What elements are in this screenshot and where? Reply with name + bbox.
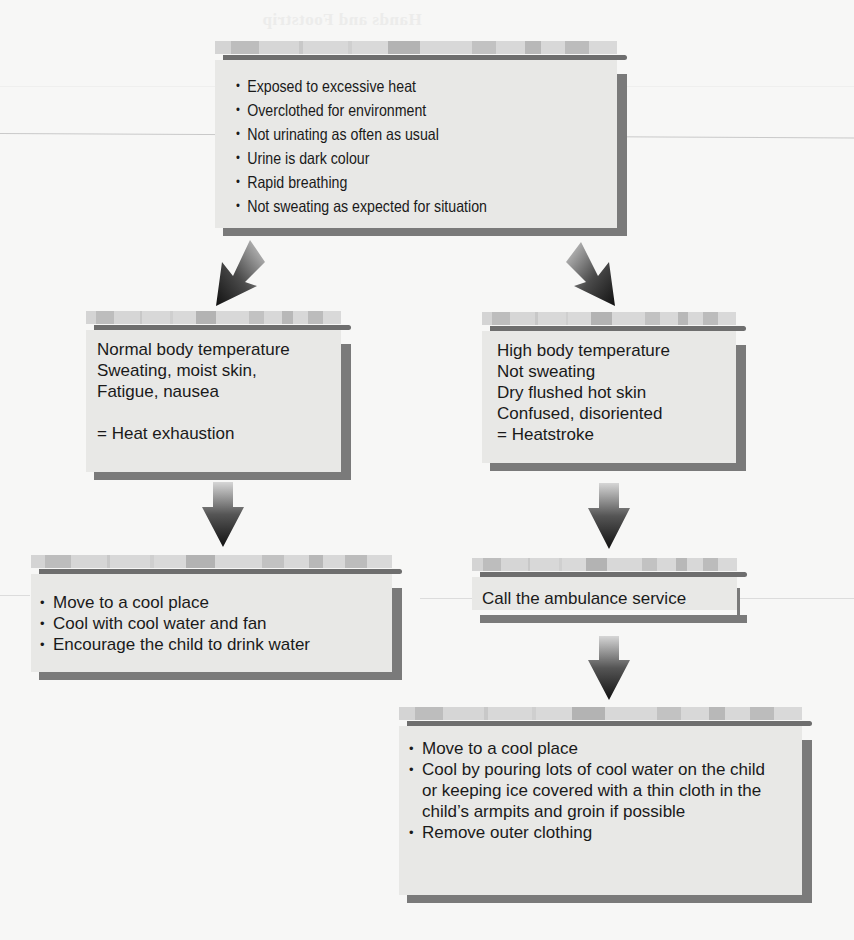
box-shadow <box>94 472 351 480</box>
symptom-line: Sweating, moist skin, <box>97 360 341 381</box>
treatment-list: Move to a cool place Cool by pouring lot… <box>409 738 779 843</box>
list-item: Cool by pouring lots of cool water on th… <box>409 759 779 822</box>
box-shadow <box>223 228 627 236</box>
exhaustion-treatment-box: Move to a cool place Cool with cool wate… <box>31 555 392 672</box>
arrow-to-heatstroke <box>566 242 615 306</box>
symptom-line: Normal body temperature <box>97 339 341 360</box>
symptoms-list: Exposed to excessive heat Overclothed fo… <box>236 74 614 218</box>
symptom-line: High body temperature <box>497 340 736 361</box>
symptom-line: Fatigue, nausea <box>97 381 341 402</box>
arrow-to-exhaustion-treatment <box>202 482 244 547</box>
symptoms-box: Exposed to excessive heat Overclothed fo… <box>215 41 617 228</box>
box-header-strip <box>482 312 736 325</box>
list-item: Remove outer clothing <box>409 822 779 843</box>
arrow-to-heatstroke-treatment <box>588 636 630 700</box>
call-ambulance-box: Call the ambulance service <box>472 558 737 612</box>
diagnosis-label: = Heatstroke <box>497 424 736 445</box>
list-item: Overclothed for environment <box>236 98 614 122</box>
arrow-to-heat-exhaustion <box>216 240 265 306</box>
box-header-strip <box>86 311 341 324</box>
arrow-to-call-ambulance <box>588 483 630 549</box>
box-shadow <box>392 588 402 680</box>
box-header-strip <box>399 707 802 720</box>
call-ambulance-label: Call the ambulance service <box>482 588 737 609</box>
list-item: Move to a cool place <box>409 738 779 759</box>
list-item: Rapid breathing <box>236 170 614 194</box>
list-item: Cool with cool water and fan <box>40 613 392 634</box>
box-header-strip <box>472 558 737 571</box>
heat-exhaustion-box: Normal body temperature Sweating, moist … <box>86 311 341 472</box>
box-header-strip <box>215 41 617 54</box>
list-item: Not sweating as expected for situation <box>236 194 614 218</box>
list-item: Encourage the child to drink water <box>40 634 392 655</box>
box-shadow <box>407 895 812 903</box>
box-shadow <box>39 672 402 680</box>
treatment-list: Move to a cool place Cool with cool wate… <box>40 592 392 655</box>
box-shadow <box>490 463 746 471</box>
diagnosis-label: = Heat exhaustion <box>97 423 341 444</box>
heatstroke-treatment-box: Move to a cool place Cool by pouring lot… <box>399 707 802 895</box>
list-item: Move to a cool place <box>40 592 392 613</box>
symptom-line: Dry flushed hot skin <box>497 382 736 403</box>
list-item: Urine is dark colour <box>236 146 614 170</box>
box-shadow <box>736 345 746 471</box>
list-item: Not urinating as often as usual <box>236 122 614 146</box>
box-shadow <box>802 740 812 903</box>
symptom-line: Confused, disoriented <box>497 403 736 424</box>
symptom-line: Not sweating <box>497 361 736 382</box>
box-header-strip <box>31 555 392 568</box>
heatstroke-box: High body temperature Not sweating Dry f… <box>482 312 736 463</box>
box-shadow <box>617 74 627 236</box>
box-shadow <box>341 344 351 480</box>
box-shadow <box>480 615 747 623</box>
list-item: Exposed to excessive heat <box>236 74 614 98</box>
